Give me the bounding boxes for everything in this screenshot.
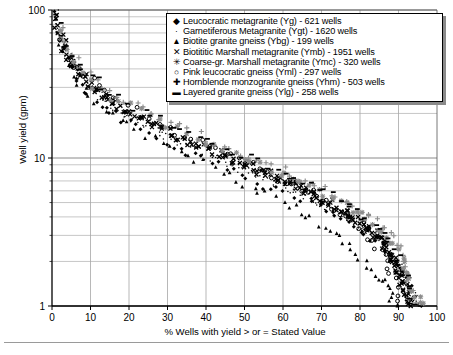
legend-marker-small-diamond-icon: ◆ (170, 16, 183, 26)
x-tick-label: 10 (85, 312, 97, 323)
legend-item[interactable]: ▲ Biotite granite gneiss (Ybg) - 199 wel… (170, 36, 438, 46)
legend-label: Leucocratic metagranite (Yg) - 621 wells (183, 16, 341, 26)
legend-item[interactable]: ◆ Leucocratic metagranite (Yg) - 621 wel… (170, 16, 438, 26)
x-tick-label: 40 (200, 312, 212, 323)
legend-marker-open-circle-icon: ○ (170, 67, 183, 77)
x-tick-label: 70 (316, 312, 328, 323)
figure-caption (38, 345, 450, 354)
x-axis-title: % Wells with yield > or = Stated Value (52, 326, 438, 337)
y-axis-title: Well yield (gpm) (17, 70, 28, 190)
legend-marker-dash-icon: ▬ (170, 87, 183, 97)
y-tick-label: 100 (28, 5, 45, 16)
legend-label: Biotititic Marshall metagranite (Ymb) - … (183, 47, 375, 57)
legend-item[interactable]: · Garnetiferous Metagranite (Ygt) - 1620… (170, 26, 438, 36)
legend-marker-x-cross-icon: ✕ (170, 47, 183, 57)
caption-divider (4, 342, 449, 343)
y-tick-label: 1 (39, 301, 45, 312)
legend-marker-triangle-icon: ▲ (170, 36, 183, 46)
x-tick-label: 0 (49, 312, 55, 323)
x-tick-label: 30 (162, 312, 174, 323)
legend-label: Pink leucocratic gneiss (Yml) - 297 well… (183, 67, 341, 77)
legend-marker-plus-icon: ✚ (170, 77, 183, 87)
legend-label: Biotite granite gneiss (Ybg) - 199 wells (183, 36, 334, 46)
legend-item[interactable]: ▬ Layered granite gneiss (Ylg) - 258 wel… (170, 87, 438, 97)
figure-well-yield-exceedance: 0102030405060708090100110100 Well yield … (0, 0, 453, 355)
legend-marker-asterisk-icon: ✳ (170, 57, 183, 67)
x-tick-label: 60 (277, 312, 289, 323)
x-tick-label: 80 (354, 312, 366, 323)
legend-item[interactable]: ○ Pink leucocratic gneiss (Yml) - 297 we… (170, 67, 438, 77)
legend-label: Layered granite gneiss (Ylg) - 258 wells (183, 87, 338, 97)
x-tick-label: 90 (393, 312, 405, 323)
legend-label: Coarse-gr. Marshall metagranite (Ymc) - … (183, 57, 380, 67)
legend-label: Hornblende monzogranite gneiss (Yhm) - 5… (183, 77, 385, 87)
x-tick-label: 50 (239, 312, 251, 323)
x-tick-label: 100 (429, 312, 446, 323)
x-tick-label: 20 (123, 312, 135, 323)
legend-item[interactable]: ✳ Coarse-gr. Marshall metagranite (Ymc) … (170, 57, 438, 67)
chart-legend: ◆ Leucocratic metagranite (Yg) - 621 wel… (166, 13, 443, 102)
legend-item[interactable]: ✕ Biotititic Marshall metagranite (Ymb) … (170, 47, 438, 57)
legend-label: Garnetiferous Metagranite (Ygt) - 1620 w… (183, 26, 357, 36)
legend-item[interactable]: ✚ Hornblende monzogranite gneiss (Yhm) -… (170, 77, 438, 87)
legend-marker-tiny-dot-icon: · (170, 26, 183, 36)
y-tick-label: 10 (34, 153, 46, 164)
